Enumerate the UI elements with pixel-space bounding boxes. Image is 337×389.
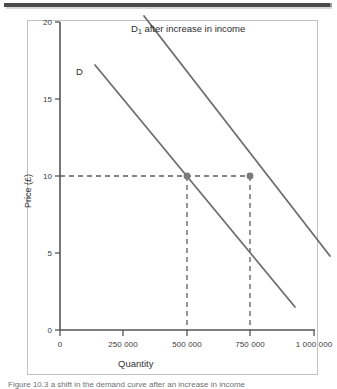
y-tick-label-5: 5 bbox=[36, 249, 52, 258]
x-axis-title: Quantity bbox=[118, 358, 153, 369]
marker-d-500000-10 bbox=[184, 173, 191, 180]
y-tick-label-15: 15 bbox=[34, 95, 52, 104]
curve-label-d1: D1 after increase in income bbox=[131, 23, 245, 34]
demand-curve-d bbox=[95, 65, 295, 307]
figure-caption-text: Figure 10.3 a shift in the demand curve … bbox=[8, 381, 328, 389]
demand-curve-d1 bbox=[144, 16, 330, 256]
x-tick-label-250000: 250 000 bbox=[95, 340, 151, 349]
x-tick-label-750000: 750 000 bbox=[222, 340, 278, 349]
x-axis-ticks bbox=[60, 330, 314, 336]
x-tick-label-500000: 500 000 bbox=[159, 340, 215, 349]
figure-caption: Figure 10.3 a shift in the demand curve … bbox=[8, 381, 328, 389]
figure-root: 0 5 10 15 20 0 250 000 500 000 750 000 1… bbox=[0, 0, 337, 389]
y-tick-label-10: 10 bbox=[34, 172, 52, 181]
y-tick-label-20: 20 bbox=[34, 18, 52, 27]
x-tick-label-0: 0 bbox=[50, 340, 70, 349]
guide-lines bbox=[60, 176, 250, 330]
x-tick-label-1000000: 1 000 000 bbox=[283, 340, 337, 349]
y-tick-label-0: 0 bbox=[36, 326, 52, 335]
y-axis-title: Price (£) bbox=[23, 156, 33, 226]
curve-label-d1-text: D1 after increase in income bbox=[131, 23, 245, 34]
marker-d1-750000-10 bbox=[247, 173, 254, 180]
curve-label-d: D bbox=[76, 66, 83, 77]
